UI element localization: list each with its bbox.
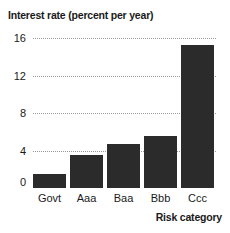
- chart-title: Interest rate (percent per year): [8, 9, 153, 21]
- y-tick-label-12: 12: [2, 70, 26, 82]
- y-tick-label-4: 4: [2, 145, 26, 157]
- y-tick-label-16: 16: [2, 32, 26, 44]
- x-tick-label-ccc: Ccc: [181, 192, 214, 204]
- x-tick-label-baa: Baa: [107, 192, 140, 204]
- bar-chart: Interest rate (percent per year) 16 12 8…: [0, 0, 230, 233]
- bar-bbb: [144, 136, 177, 189]
- x-axis-title: Risk category: [156, 211, 222, 223]
- bar-govt: [33, 174, 66, 188]
- x-tick-label-aaa: Aaa: [70, 192, 103, 204]
- y-tick-label-0: 0: [2, 176, 26, 188]
- x-tick-label-govt: Govt: [33, 192, 66, 204]
- gridline-16: [33, 38, 216, 39]
- x-tick-label-bbb: Bbb: [144, 192, 177, 204]
- y-tick-label-8: 8: [2, 107, 26, 119]
- bar-aaa: [70, 155, 103, 188]
- bar-baa: [107, 144, 140, 188]
- bar-ccc: [181, 45, 214, 188]
- plot-area: [33, 38, 216, 188]
